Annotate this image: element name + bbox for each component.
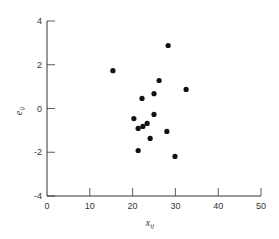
data-point — [151, 91, 156, 96]
data-point — [136, 148, 141, 153]
data-point — [164, 129, 169, 134]
y-tick-label: 0 — [37, 104, 42, 114]
x-axis-title: xij — [145, 217, 154, 230]
x-tick-label: 30 — [170, 201, 180, 211]
x-tick-label: 50 — [256, 201, 266, 211]
data-point — [166, 43, 171, 48]
x-tick-label: 10 — [85, 201, 95, 211]
data-point — [136, 126, 141, 131]
y-ticks: -4-2024 — [34, 16, 55, 201]
x-tick-label: 0 — [44, 201, 49, 211]
data-point — [184, 87, 189, 92]
data-point — [145, 121, 150, 126]
data-point — [157, 78, 162, 83]
axes — [47, 21, 261, 196]
data-point — [151, 112, 156, 117]
data-point — [140, 124, 145, 129]
x-ticks: 01020304050 — [44, 188, 266, 211]
y-tick-label: -4 — [34, 191, 42, 201]
x-tick-label: 20 — [128, 201, 138, 211]
y-axis-title: eij — [13, 107, 26, 115]
data-point — [131, 116, 136, 121]
data-point — [110, 68, 115, 73]
scatter-chart: -4-2024 01020304050 xij eij — [0, 0, 279, 239]
x-tick-label: 40 — [213, 201, 223, 211]
y-tick-label: 4 — [37, 16, 42, 26]
data-point — [172, 154, 177, 159]
data-point — [139, 96, 144, 101]
y-tick-label: -2 — [34, 147, 42, 157]
data-points — [110, 43, 188, 159]
y-tick-label: 2 — [37, 60, 42, 70]
data-point — [148, 136, 153, 141]
